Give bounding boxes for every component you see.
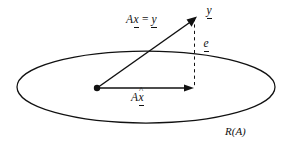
equation-label: Ax=y bbox=[126, 14, 157, 26]
vector-y-shaft bbox=[97, 21, 193, 89]
equation-equals: = bbox=[139, 13, 151, 25]
equation-vector-x: x bbox=[133, 14, 139, 26]
vector-y-arrowhead bbox=[187, 17, 198, 27]
vector-projection-arrowhead bbox=[184, 84, 194, 91]
equation-operator: A bbox=[126, 13, 133, 25]
residual-vector-label: e bbox=[203, 38, 209, 50]
target-vector-label: y bbox=[206, 5, 212, 17]
equation-vector-y: y bbox=[151, 14, 157, 26]
residual-vector-symbol: e bbox=[203, 38, 209, 50]
range-subspace-ellipse bbox=[17, 51, 275, 123]
hat-accent: ^ bbox=[139, 86, 143, 95]
target-vector-symbol: y bbox=[206, 5, 212, 17]
origin-dot bbox=[94, 85, 100, 91]
projection-operator: A bbox=[131, 91, 138, 103]
projection-vector-symbol: ^x bbox=[138, 92, 144, 104]
range-subspace-label: R(A) bbox=[225, 126, 246, 137]
least-squares-projection-figure: Ax=y y e A^x R(A) bbox=[0, 0, 293, 153]
projection-vector-label: A^x bbox=[131, 92, 144, 104]
